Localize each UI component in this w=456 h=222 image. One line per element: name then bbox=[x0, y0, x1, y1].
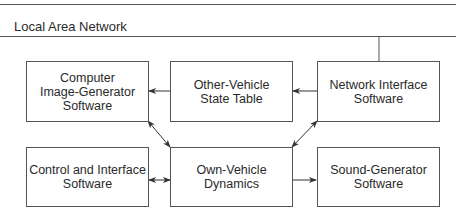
box-label: Control and Interface Software bbox=[29, 163, 146, 191]
box-computer-image-generator: Computer Image-Generator Software bbox=[26, 61, 149, 122]
arrow-image-generator-own-vehicle bbox=[148, 121, 170, 147]
box-own-vehicle-dynamics: Own-Vehicle Dynamics bbox=[170, 147, 293, 207]
box-label: Sound-Generator Software bbox=[330, 163, 427, 191]
box-label: Computer Image-Generator Software bbox=[40, 71, 135, 113]
box-label: Other-Vehicle State Table bbox=[194, 78, 270, 106]
box-sound-generator: Sound-Generator Software bbox=[317, 147, 440, 207]
box-label: Own-Vehicle Dynamics bbox=[196, 163, 266, 191]
box-network-interface: Network Interface Software bbox=[317, 61, 440, 122]
box-other-vehicle-state-table: Other-Vehicle State Table bbox=[170, 61, 293, 122]
arrow-own-vehicle-network bbox=[292, 121, 317, 147]
box-control-and-interface: Control and Interface Software bbox=[26, 147, 149, 207]
box-label: Network Interface Software bbox=[330, 78, 428, 106]
